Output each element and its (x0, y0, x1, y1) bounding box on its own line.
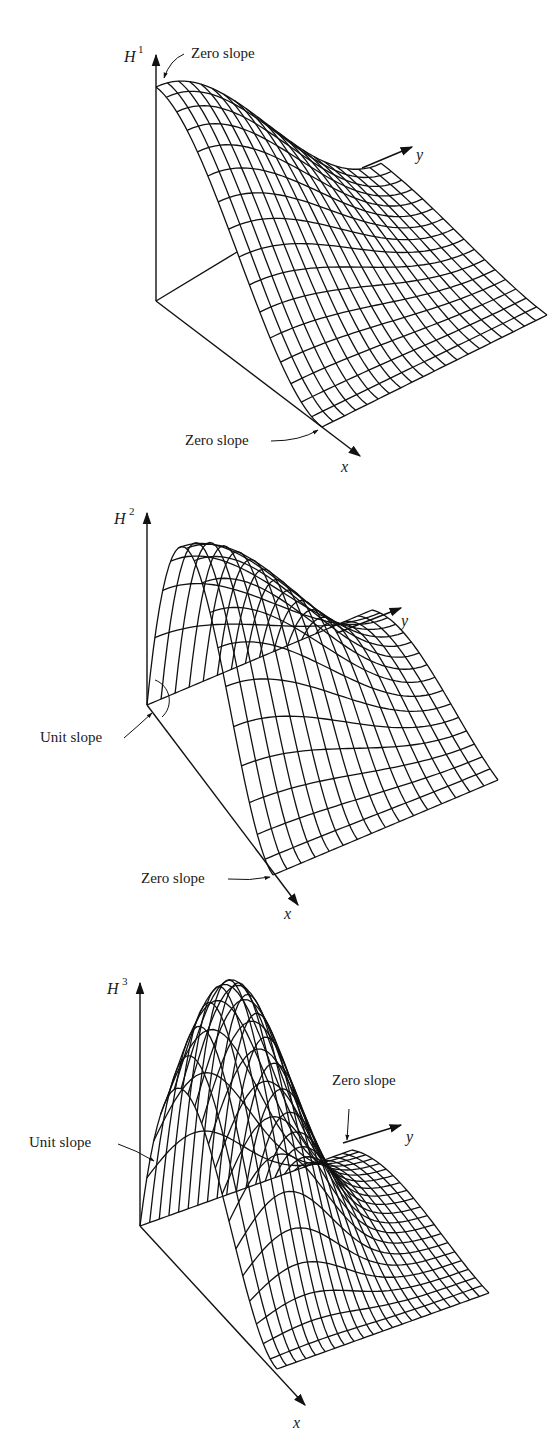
mesh-line-u (265, 1132, 402, 1324)
mesh-line-u (140, 1088, 277, 1369)
annotation-zero-slope-bottom-h1: Zero slope (185, 432, 249, 448)
mesh-line-u (370, 168, 536, 321)
callout-arrow-unit-slope-h3 (118, 1144, 154, 1161)
mesh-line-u (333, 1157, 470, 1300)
annotation-unit-slope-h3: Unit slope (29, 1134, 91, 1150)
callout-arrow-bottom-h1 (271, 430, 318, 441)
x-axis-label-h1: x (340, 458, 348, 475)
y-axis-label-h3: y (404, 1128, 414, 1146)
figure-h2: H 2 y x Unit slope Zero slope (40, 505, 498, 922)
mesh-line-u (359, 169, 525, 326)
vertical-axis-superscript-h3: 3 (122, 975, 128, 987)
y-axis-h1 (362, 147, 412, 168)
mesh-line-u (167, 83, 333, 422)
callout-arrow-unit-slope-h2 (124, 713, 152, 738)
vertical-axis-superscript-h1: 1 (138, 43, 144, 55)
x-axis-label-h3: x (292, 1414, 300, 1431)
mesh-h3 (140, 980, 489, 1369)
y-axis-label-h1: y (414, 146, 424, 164)
y-axis-label-h2: y (399, 612, 409, 630)
figure-h3: H 3 y x Unit slope Zero slope (29, 975, 489, 1431)
callout-arrow-zero-slope-h2 (228, 877, 270, 880)
vertical-axis-label-h3: H (106, 980, 120, 997)
mesh-line-u (201, 84, 367, 404)
mesh-line-u (372, 610, 498, 780)
mesh-h1 (156, 81, 547, 427)
x-axis-label-h2: x (283, 905, 291, 922)
annotation-zero-slope-top-h1: Zero slope (191, 45, 255, 61)
figure-h1: H 1 y x Zero slope Zero slope (123, 43, 547, 475)
callout-arrow-top-h1 (164, 54, 184, 78)
hermite-surface-figures: H 1 y x Zero slope Zero slope H 2 y x Un… (0, 0, 557, 1441)
annotation-unit-slope-h2: Unit slope (40, 729, 102, 745)
y-axis-h3 (343, 1125, 401, 1143)
annotation-zero-slope-h2: Zero slope (141, 870, 205, 886)
vertical-axis-superscript-h2: 2 (129, 505, 135, 517)
x-axis-h3 (140, 1226, 305, 1405)
mesh-line-u (330, 624, 456, 798)
callout-arrow-zero-slope-h3 (347, 1109, 349, 1140)
mesh-line-v (263, 1278, 475, 1344)
base-edge-h1 (156, 252, 237, 301)
annotation-zero-slope-h3: Zero slope (332, 1072, 396, 1088)
vertical-axis-label-h1: H (123, 48, 137, 65)
mesh-h2 (147, 543, 498, 875)
vertical-axis-label-h2: H (113, 510, 127, 527)
mesh-line-u (358, 616, 484, 786)
